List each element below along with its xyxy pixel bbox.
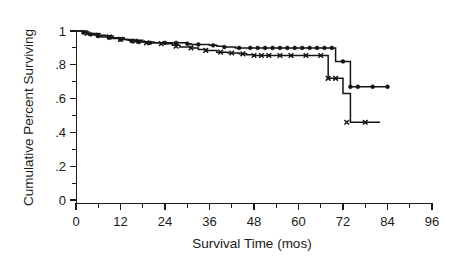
km-survival-chart: Cumulative Percent Surviving Survival Ti… xyxy=(0,0,462,261)
censor-marks-group-x xyxy=(85,31,368,124)
censor-circle-marker xyxy=(386,85,390,89)
censor-x-marker xyxy=(344,120,349,125)
data-series-layer xyxy=(76,31,389,125)
censor-circle-marker xyxy=(371,85,375,89)
censor-circle-marker xyxy=(293,46,297,50)
y-tick-label: .8 xyxy=(55,57,66,72)
x-tick-label: 0 xyxy=(72,214,79,229)
x-tick-label: 60 xyxy=(291,214,305,229)
x-tick-label: 72 xyxy=(336,214,350,229)
y-tick-label: .2 xyxy=(55,159,66,174)
censor-circle-marker xyxy=(285,46,289,50)
y-tick-label: 1 xyxy=(59,24,66,39)
censor-x-marker xyxy=(159,41,164,46)
x-tick-label: 84 xyxy=(380,214,394,229)
censor-circle-marker xyxy=(341,60,345,64)
censor-circle-marker xyxy=(185,42,189,46)
x-tick-label: 96 xyxy=(425,214,439,229)
censor-circle-marker xyxy=(248,46,252,50)
censor-circle-marker xyxy=(222,45,226,49)
y-tick-label: .6 xyxy=(55,91,66,106)
censor-circle-marker xyxy=(196,43,200,47)
censor-circle-marker xyxy=(300,46,304,50)
censor-circle-marker xyxy=(237,46,241,50)
censor-circle-marker xyxy=(256,46,260,50)
x-tick-label: 36 xyxy=(202,214,216,229)
x-tick-label: 12 xyxy=(113,214,127,229)
x-axis-title: Survival Time (mos) xyxy=(192,236,311,251)
censor-circle-marker xyxy=(211,43,215,47)
y-tick-label: .4 xyxy=(55,125,66,140)
y-tick-label: 0 xyxy=(59,193,66,208)
chart-canvas: Cumulative Percent Surviving Survival Ti… xyxy=(0,0,462,261)
censor-circle-marker xyxy=(278,46,282,50)
censor-circle-marker xyxy=(271,46,275,50)
censor-circle-marker xyxy=(308,46,312,50)
censor-circle-marker xyxy=(356,85,360,89)
censor-circle-marker xyxy=(330,46,334,50)
censor-circle-marker xyxy=(349,85,353,89)
y-axis-ticks: 0.2.4.6.81 xyxy=(55,24,76,208)
censor-circle-marker xyxy=(323,46,327,50)
x-tick-label: 48 xyxy=(247,214,261,229)
censor-circle-marker xyxy=(315,46,319,50)
x-tick-label: 24 xyxy=(158,214,172,229)
x-axis-ticks: 01224364860728496 xyxy=(72,203,439,229)
y-axis-title: Cumulative Percent Surviving xyxy=(21,29,36,206)
censor-circle-marker xyxy=(263,46,267,50)
